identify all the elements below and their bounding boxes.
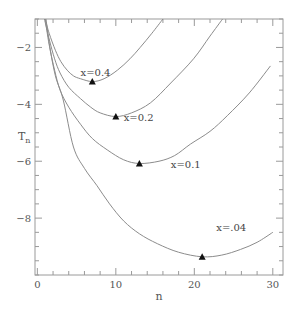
y-axis-label: Tn bbox=[18, 130, 31, 145]
y-axis-label-subscript: n bbox=[25, 136, 30, 145]
curve-label: x=0.4 bbox=[81, 67, 111, 78]
x-tick-label: 20 bbox=[188, 279, 201, 290]
y-tick-label: −6 bbox=[16, 156, 31, 167]
y-tick-label: −2 bbox=[16, 42, 31, 53]
axis-ticks: 0102030−2−4−6−8 bbox=[16, 19, 283, 290]
curve-x01 bbox=[45, 19, 270, 164]
curve-label: x=0.2 bbox=[124, 112, 154, 123]
y-tick-label: −4 bbox=[16, 99, 31, 110]
plot-frame bbox=[35, 19, 283, 275]
chart-container: 0102030−2−4−6−8 x=0.4x=0.2x=0.1x=.04 n T… bbox=[0, 0, 298, 316]
curve-labels: x=0.4x=0.2x=0.1x=.04 bbox=[81, 67, 247, 233]
line-chart: 0102030−2−4−6−8 x=0.4x=0.2x=0.1x=.04 n T… bbox=[0, 0, 298, 316]
curve-label: x=.04 bbox=[216, 222, 246, 233]
curve-x02 bbox=[44, 19, 222, 117]
curve-label: x=0.1 bbox=[171, 159, 201, 170]
y-tick-label: −8 bbox=[16, 213, 31, 224]
axes-frame bbox=[35, 19, 283, 275]
x-axis-label: n bbox=[155, 290, 162, 303]
x-tick-label: 0 bbox=[34, 279, 40, 290]
x-tick-label: 30 bbox=[266, 279, 279, 290]
x-tick-label: 10 bbox=[109, 279, 122, 290]
